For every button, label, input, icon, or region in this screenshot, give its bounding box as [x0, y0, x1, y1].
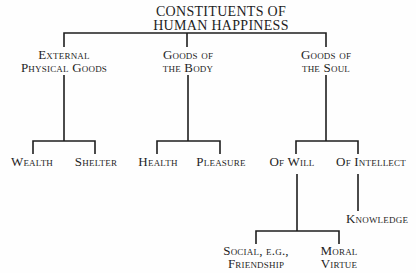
category-goods-of-the-body: Goods of the Body	[148, 48, 228, 74]
leaf-health: Health	[128, 155, 188, 168]
category-line-2: Physical Goods	[14, 61, 114, 74]
category-line-2: the Body	[148, 61, 228, 74]
leaf-knowledge: Knowledge	[338, 212, 416, 225]
title-line-2: HUMAN HAPPINESS	[128, 19, 314, 33]
leaf-of-intellect: Of Intellect	[326, 155, 416, 168]
leaf-line-2: Virtue	[310, 257, 368, 270]
leaf-line-2: Friendship	[216, 257, 296, 270]
category-external-physical-goods: External Physical Goods	[14, 48, 114, 74]
diagram-title: CONSTITUENTS OF HUMAN HAPPINESS	[128, 5, 314, 33]
leaf-social-friendship: Social, e.g., Friendship	[216, 244, 296, 270]
category-line-2: the Soul	[286, 61, 366, 74]
category-goods-of-the-soul: Goods of the Soul	[286, 48, 366, 74]
leaf-of-will: Of Will	[262, 155, 322, 168]
title-line-1: CONSTITUENTS OF	[128, 5, 314, 19]
leaf-wealth: Wealth	[2, 155, 62, 168]
diagram-canvas: CONSTITUENTS OF HUMAN HAPPINESS External…	[0, 0, 416, 273]
leaf-shelter: Shelter	[66, 155, 126, 168]
leaf-moral-virtue: Moral Virtue	[310, 244, 368, 270]
leaf-pleasure: Pleasure	[190, 155, 252, 168]
tree-connectors	[0, 0, 416, 273]
